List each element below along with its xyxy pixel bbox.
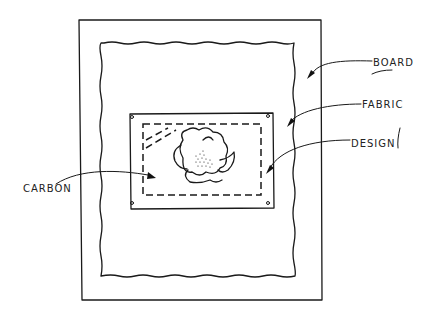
fabric-label: FABRIC bbox=[362, 99, 403, 110]
board-label: BOARD bbox=[373, 57, 414, 68]
fabric-tick bbox=[398, 128, 400, 148]
carbon-corner-mark bbox=[146, 130, 176, 148]
pin-icon bbox=[131, 116, 134, 119]
pin-icon bbox=[267, 115, 270, 118]
fabric-outline bbox=[100, 42, 295, 277]
carbon-label: CARBON bbox=[23, 183, 72, 194]
flower-design-icon bbox=[174, 128, 235, 183]
design-label: DESIGN bbox=[351, 138, 396, 149]
pin-icon bbox=[267, 202, 270, 205]
arrowhead-icon bbox=[147, 172, 156, 179]
board-outline bbox=[79, 20, 322, 300]
arrowhead-icon bbox=[266, 165, 274, 174]
fabric-leader-line bbox=[290, 104, 361, 122]
pin-icon bbox=[131, 202, 134, 205]
embroidery-transfer-diagram: BOARD FABRIC DESIGN CARBON bbox=[0, 0, 441, 319]
carbon-corner-mark bbox=[146, 128, 168, 140]
board-underline bbox=[372, 70, 392, 74]
carbon-outline bbox=[143, 124, 261, 195]
design-leader-line bbox=[270, 140, 350, 168]
